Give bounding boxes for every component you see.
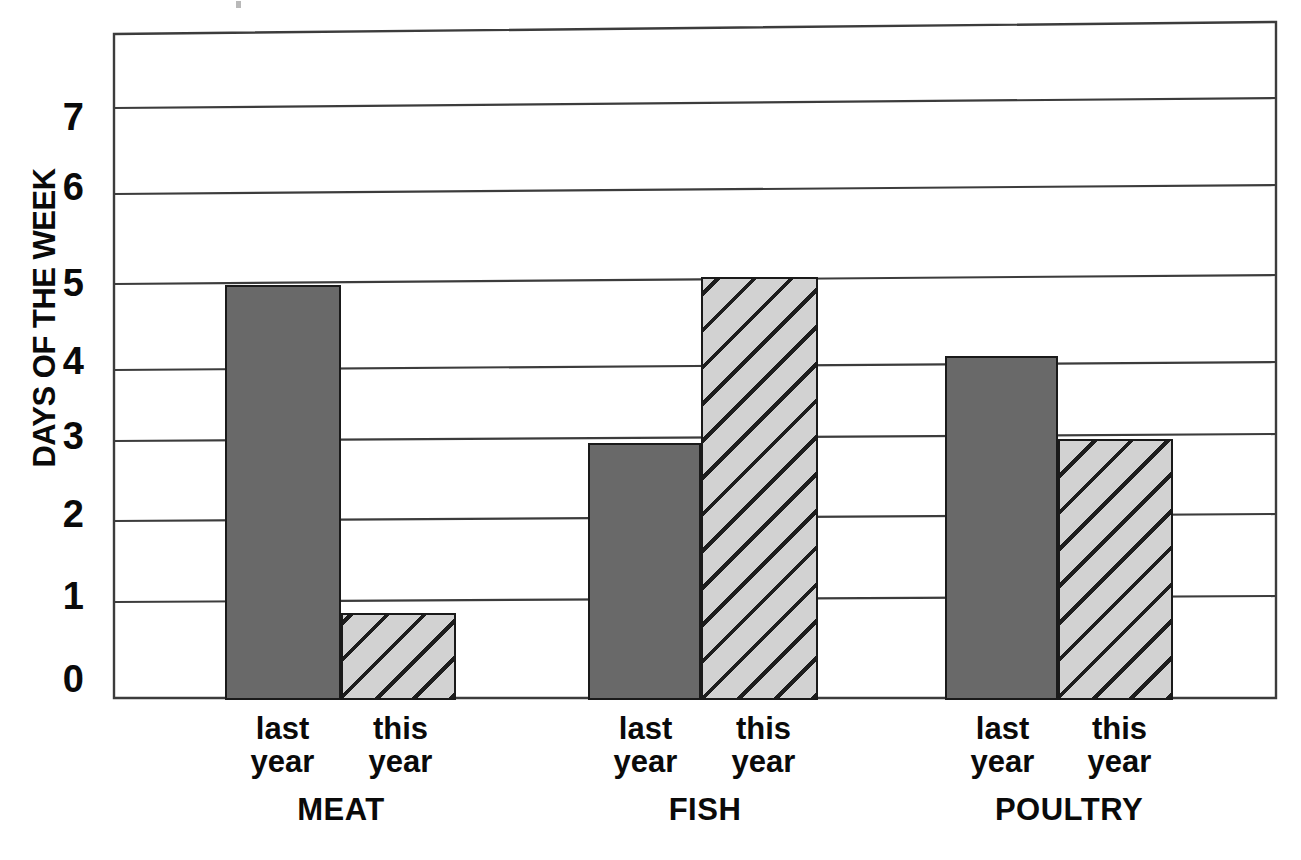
gridline-5 <box>114 275 1276 284</box>
y-tick-label-5: 5 <box>42 264 84 302</box>
y-tick-label-6: 6 <box>42 168 84 206</box>
bar-chart-figure: DAYS OF THE WEEK 7 6 5 4 3 2 1 0 l <box>0 0 1301 860</box>
plot-area <box>112 22 1278 700</box>
bar-meat-this-year[interactable] <box>341 613 456 700</box>
scan-artifact-speck <box>236 1 241 8</box>
group-label-meat: MEAT <box>261 792 421 828</box>
y-tick-label-2: 2 <box>42 495 84 533</box>
bar-poultry-this-year[interactable] <box>1058 439 1173 700</box>
bar-poultry-last-year[interactable] <box>945 356 1058 700</box>
gridline-7 <box>114 98 1276 108</box>
bar-meat-last-year[interactable] <box>225 285 341 700</box>
group-label-poultry: POULTRY <box>979 792 1159 828</box>
y-tick-label-1: 1 <box>42 577 84 615</box>
bar-fish-this-year[interactable] <box>701 277 818 700</box>
series-label-fish-this-year: this year <box>686 712 841 779</box>
y-tick-label-3: 3 <box>42 417 84 455</box>
y-tick-label-7: 7 <box>42 98 84 136</box>
series-label-poultry-this-year: this year <box>1042 712 1197 779</box>
gridline-6 <box>114 185 1276 194</box>
group-label-fish: FISH <box>625 792 785 828</box>
y-tick-label-0: 0 <box>42 660 84 698</box>
bar-fish-last-year[interactable] <box>588 443 701 700</box>
series-label-meat-this-year: this year <box>323 712 478 779</box>
y-tick-label-4: 4 <box>42 342 84 380</box>
